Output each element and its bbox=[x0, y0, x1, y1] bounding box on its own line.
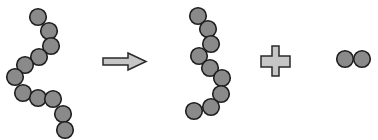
bead bbox=[200, 21, 217, 38]
right-arrow-icon bbox=[103, 53, 146, 70]
bead bbox=[41, 23, 58, 40]
bead bbox=[55, 106, 72, 123]
bead bbox=[337, 51, 354, 68]
bead bbox=[57, 122, 74, 139]
bead bbox=[214, 70, 231, 87]
bead bbox=[203, 99, 220, 116]
bead bbox=[15, 85, 32, 102]
bead bbox=[354, 51, 371, 68]
product-pair bbox=[337, 51, 371, 68]
bead bbox=[45, 91, 62, 108]
plus-icon bbox=[261, 46, 290, 76]
reaction-diagram bbox=[0, 0, 378, 140]
bead bbox=[30, 9, 47, 26]
product-chain bbox=[186, 8, 231, 120]
bead bbox=[7, 69, 24, 86]
bead bbox=[30, 90, 47, 107]
reactant-chain bbox=[7, 9, 74, 139]
bead bbox=[186, 103, 203, 120]
